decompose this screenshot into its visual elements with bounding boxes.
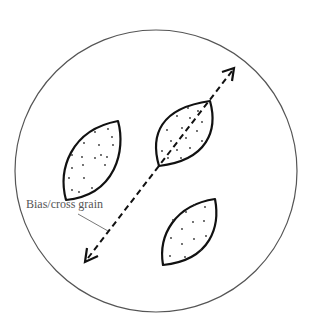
dot-pattern [169,204,207,258]
dot-pattern [68,128,114,193]
label-leader-line [78,214,108,231]
bias-cross-grain-label: Bias/cross grain [26,197,103,212]
pattern-piece-top-right [156,101,212,166]
pattern-piece-left [64,121,121,200]
arrowhead-top-icon [222,68,234,81]
pattern-layout-diagram [0,0,314,333]
pattern-piece-bottom-right [162,199,216,265]
